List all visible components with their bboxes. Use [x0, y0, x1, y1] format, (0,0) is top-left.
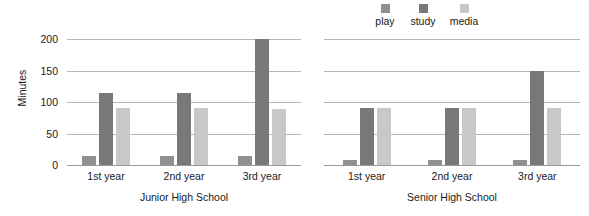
y-axis-tick-labels: 050100150200 [28, 0, 58, 216]
plot-area [67, 39, 301, 165]
y-axis-title: Minutes [16, 48, 28, 128]
y-tick-label: 100 [28, 97, 58, 107]
panel-title: Senior High School [324, 191, 580, 203]
bar-media[interactable] [116, 108, 130, 165]
x-tick-label: 3rd year [223, 170, 301, 182]
y-tick-label: 200 [28, 34, 58, 44]
y-tick-label: 150 [28, 66, 58, 76]
bar-media[interactable] [377, 108, 391, 165]
axis-zero-line [67, 165, 301, 166]
x-tick-label: 3rd year [495, 170, 580, 182]
plot-area [324, 39, 580, 165]
bar-study[interactable] [530, 71, 544, 166]
bar-study[interactable] [99, 93, 113, 165]
bar-media[interactable] [547, 108, 561, 165]
bar-study[interactable] [360, 108, 374, 165]
bar-media[interactable] [194, 108, 208, 165]
bar-study[interactable] [255, 39, 269, 165]
x-tick-label: 2nd year [145, 170, 223, 182]
bar-play[interactable] [513, 160, 527, 165]
bar-media[interactable] [462, 108, 476, 165]
bar-chart-figure: play study media Minutes 050100150200 1s… [0, 0, 589, 216]
panel-senior-high-school: 1st year2nd year3rd yearSenior High Scho… [324, 0, 580, 216]
bar-play[interactable] [343, 160, 357, 165]
bar-play[interactable] [160, 156, 174, 165]
y-tick-label: 50 [28, 129, 58, 139]
bar-play[interactable] [82, 156, 96, 165]
y-tick-label: 0 [28, 160, 58, 170]
bar-media[interactable] [272, 109, 286, 165]
panel-title: Junior High School [67, 191, 301, 203]
x-tick-label: 1st year [324, 170, 409, 182]
bar-play[interactable] [428, 160, 442, 165]
panel-junior-high-school: 1st year2nd year3rd yearJunior High Scho… [67, 0, 301, 216]
x-tick-label: 1st year [67, 170, 145, 182]
bar-study[interactable] [445, 108, 459, 165]
gridline [324, 39, 580, 40]
bar-study[interactable] [177, 93, 191, 165]
x-tick-label: 2nd year [409, 170, 494, 182]
bar-play[interactable] [238, 156, 252, 165]
axis-zero-line [324, 165, 580, 166]
